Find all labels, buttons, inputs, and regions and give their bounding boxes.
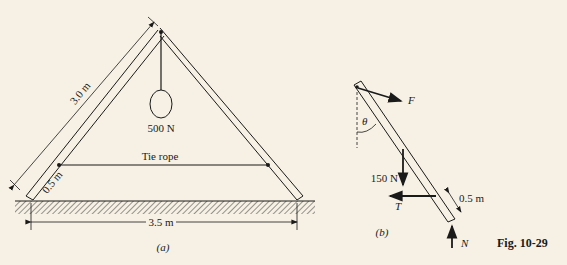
panel-a-label: (a)	[157, 241, 170, 254]
left-ladder	[26, 30, 164, 200]
hanging-weight	[150, 90, 172, 118]
tie-rope-label: Tie rope	[142, 150, 179, 162]
panel-a: 500 N Tie rope 3.0 m 0.5 m 3.5 m (a)	[10, 17, 315, 254]
panel-b-label: (b)	[376, 226, 389, 239]
tie-rope-end-left	[57, 163, 61, 167]
ladder-length-dim	[14, 22, 154, 185]
figure-caption: Fig. 10-29	[497, 236, 548, 250]
dim-tick-bottom	[10, 180, 20, 190]
ladder-bar	[354, 81, 455, 222]
weight-label-b: 150 N	[371, 172, 398, 184]
base-span-label: 3.5 m	[148, 216, 174, 228]
dim-tick-top	[148, 17, 158, 26]
figure-canvas: 500 N Tie rope 3.0 m 0.5 m 3.5 m (a) F θ	[0, 0, 567, 265]
normal-label: N	[460, 237, 469, 249]
right-ladder	[160, 28, 303, 200]
ground-hatch	[15, 201, 315, 214]
force-F-arrow	[358, 88, 401, 101]
rope-offset-label: 0.5 m	[39, 168, 65, 195]
force-F-label: F	[407, 94, 415, 106]
panel-b: F θ 150 N T 0.5 m N (b)	[354, 81, 485, 249]
weight-label: 500 N	[147, 122, 174, 134]
angle-label: θ	[362, 115, 368, 127]
tie-rope-end-right	[266, 163, 270, 167]
offset-label: 0.5 m	[459, 192, 485, 204]
tension-label: T	[395, 200, 402, 212]
